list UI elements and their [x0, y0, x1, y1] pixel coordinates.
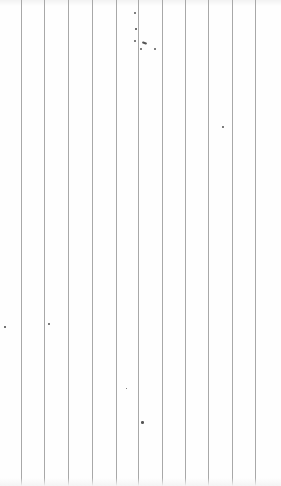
bottom-edge-shadow [0, 478, 281, 486]
paper-speck [135, 28, 137, 30]
paper-speck [134, 40, 136, 42]
paper-speck [222, 126, 224, 128]
paper-speck [48, 323, 50, 325]
ruled-line [232, 0, 233, 486]
lined-paper [0, 0, 281, 486]
ruled-line [162, 0, 163, 486]
paper-speck [140, 48, 142, 50]
ruled-line [138, 0, 139, 486]
ruled-line [116, 0, 117, 486]
ruled-line [208, 0, 209, 486]
ruled-line [21, 0, 22, 486]
paper-speck [154, 48, 156, 50]
ruled-line [44, 0, 45, 486]
paper-speck [142, 41, 147, 45]
top-edge-shadow [0, 0, 281, 6]
ruled-line [92, 0, 93, 486]
paper-speck [126, 388, 127, 389]
ruled-line [68, 0, 69, 486]
ruled-line [255, 0, 256, 486]
paper-speck [141, 421, 144, 424]
paper-speck [4, 326, 6, 328]
ruled-line [185, 0, 186, 486]
paper-speck [134, 12, 136, 14]
